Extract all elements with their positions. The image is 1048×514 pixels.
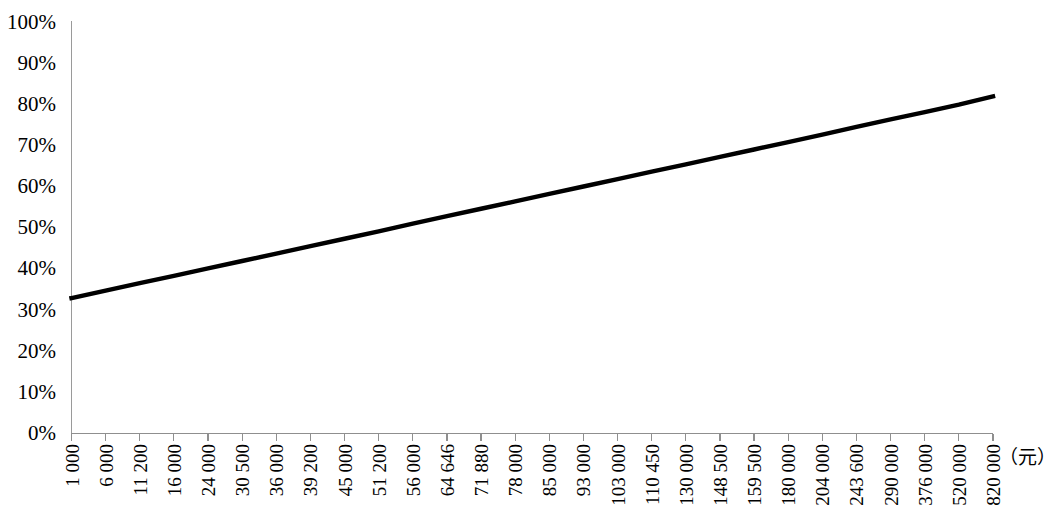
x-tick-label-text: 36 000 [267,444,286,496]
x-tick-label-text: 180 000 [779,444,798,506]
x-tick-label-text: 376 000 [915,444,934,506]
x-tick-label-text: 24 000 [199,444,218,496]
x-tick-label-text: 1 000 [62,444,81,487]
x-tick-label-text: 64 646 [437,444,456,496]
x-tick-label-text: 16 000 [164,444,183,496]
x-tick-label-text: 11 200 [130,444,149,496]
x-tick-label-text: 30 500 [233,444,252,496]
x-tick-label-text: 71 880 [472,444,491,496]
x-tick-label-text: 520 000 [949,444,968,506]
x-tick-label-text: 93 000 [574,444,593,496]
x-axis-unit-label: （元） [999,448,1048,467]
x-tick-label-text: 110 450 [642,444,661,505]
x-tick-label-text: 39 200 [301,444,320,496]
x-tick-label-text: 78 000 [506,444,525,496]
x-tick-label-text: 243 600 [847,444,866,506]
x-tick-label-text: 204 000 [813,444,832,506]
x-tick-label-text: 103 000 [608,444,627,506]
x-tick-label-text: 290 000 [881,444,900,506]
x-tick-label-text: 45 000 [335,444,354,496]
x-tick-label-text: 148 500 [710,444,729,506]
x-tick-label-text: 6 000 [96,444,115,487]
x-tick-label-text: 56 000 [403,444,422,496]
x-tick-label-text: 51 200 [369,444,388,496]
x-tick-label-text: 85 000 [540,444,559,496]
x-tick-label-text: 130 000 [676,444,695,506]
x-tick-label-text: 159 500 [745,444,764,506]
